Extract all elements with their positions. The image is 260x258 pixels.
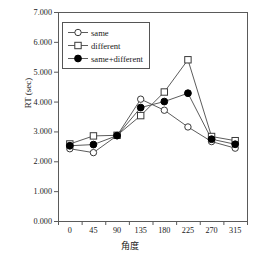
legend-item-same-plus-different: same+different	[67, 52, 143, 65]
data-point-open-circle	[75, 29, 81, 35]
series-line-different	[70, 60, 235, 144]
legend-marker-open-circle-icon	[67, 27, 89, 38]
series-markers-same-plus-different	[66, 90, 238, 149]
data-point-filled-circle	[114, 132, 121, 139]
legend-marker-open-square-icon	[67, 40, 89, 51]
data-point-open-circle	[137, 96, 143, 102]
data-point-filled-circle	[232, 141, 239, 148]
data-point-open-square	[161, 89, 167, 95]
chart-legend: samedifferentsame+different	[62, 22, 150, 69]
legend-label: different	[89, 41, 120, 51]
data-point-filled-circle	[75, 55, 82, 62]
data-point-filled-circle	[137, 104, 144, 111]
data-point-filled-circle	[208, 136, 215, 143]
data-point-open-square	[137, 112, 143, 118]
data-point-filled-circle	[161, 98, 168, 105]
data-point-open-circle	[185, 124, 191, 130]
legend-item-different: different	[67, 39, 143, 52]
data-point-open-circle	[90, 149, 96, 155]
data-point-open-square	[90, 133, 96, 139]
data-point-open-circle	[161, 107, 167, 113]
data-point-filled-circle	[185, 90, 192, 97]
legend-label: same+different	[89, 54, 143, 64]
data-point-filled-circle	[66, 142, 73, 149]
legend-item-same: same	[67, 26, 143, 39]
legend-label: same	[89, 28, 109, 38]
series-markers-different	[67, 57, 239, 148]
data-point-open-square	[75, 42, 81, 48]
chart-container: RT (sec) 0.0001.0002.0003.0004.0005.0006…	[0, 0, 260, 258]
data-point-filled-circle	[90, 141, 97, 148]
legend-marker-filled-circle-icon	[67, 53, 89, 64]
data-point-open-square	[185, 57, 191, 63]
